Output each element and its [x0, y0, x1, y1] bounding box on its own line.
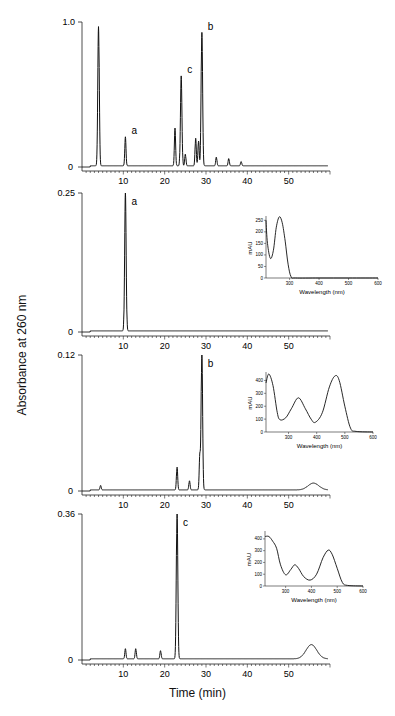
x-tick-label: 30 — [201, 669, 211, 679]
panel-4: 0.3601020304050c010020030040030040050060… — [57, 509, 367, 679]
svg-text:0: 0 — [260, 276, 263, 281]
inset-x-label: Wavelength (nm) — [291, 597, 336, 603]
spectrum-trace — [266, 374, 373, 432]
x-tick-label: 50 — [284, 176, 294, 186]
y-tick-zero: 0 — [68, 327, 73, 337]
y-tick-max: 0.12 — [57, 350, 75, 360]
svg-text:500: 500 — [341, 435, 349, 440]
peak-label-b: b — [208, 21, 214, 32]
y-tick-max: 0.36 — [57, 509, 75, 519]
x-tick-label: 20 — [160, 669, 170, 679]
svg-text:50: 50 — [258, 264, 264, 269]
peak-label-b: b — [208, 358, 214, 369]
svg-text:300: 300 — [286, 281, 294, 286]
svg-text:400: 400 — [313, 435, 321, 440]
svg-text:400: 400 — [315, 281, 323, 286]
svg-text:100: 100 — [255, 252, 263, 257]
panel-2: 0.2501020304050a050100150200250300400500… — [57, 188, 382, 351]
svg-text:0: 0 — [260, 430, 263, 435]
x-tick-label: 40 — [242, 500, 252, 510]
x-axis-label: Time (min) — [0, 686, 395, 700]
svg-text:400: 400 — [308, 589, 316, 594]
svg-text:500: 500 — [345, 281, 353, 286]
svg-text:300: 300 — [282, 589, 290, 594]
x-tick-label: 40 — [242, 669, 252, 679]
inset-x-label: Wavelength (nm) — [297, 443, 342, 449]
x-tick-label: 40 — [242, 341, 252, 351]
spectrum-trace — [266, 217, 378, 279]
svg-text:600: 600 — [359, 589, 367, 594]
peak-label-a: a — [131, 125, 137, 136]
x-tick-label: 10 — [118, 176, 128, 186]
x-tick-label: 50 — [284, 341, 294, 351]
x-tick-label: 30 — [201, 176, 211, 186]
y-axis-label: Absorbance at 260 nm — [15, 275, 29, 435]
svg-text:100: 100 — [255, 417, 263, 422]
y-tick-zero: 0 — [68, 162, 73, 172]
x-tick-label: 50 — [284, 500, 294, 510]
x-tick-label: 10 — [118, 500, 128, 510]
x-tick-label: 20 — [160, 341, 170, 351]
peak-label-c: c — [183, 517, 188, 528]
inset-y-label: mAU — [247, 241, 253, 254]
chromatogram-figure: 1.001020304050acb0.2501020304050a0501001… — [0, 0, 395, 716]
svg-text:400: 400 — [255, 378, 263, 383]
svg-text:500: 500 — [333, 589, 341, 594]
x-tick-label: 30 — [201, 341, 211, 351]
chromatogram-trace — [82, 27, 328, 167]
inset-y-label: mAU — [247, 396, 253, 409]
svg-text:200: 200 — [255, 404, 263, 409]
svg-text:250: 250 — [255, 218, 263, 223]
x-tick-label: 30 — [201, 500, 211, 510]
panel-1: 1.001020304050acb — [62, 17, 330, 186]
x-tick-label: 40 — [242, 176, 252, 186]
svg-text:150: 150 — [255, 241, 263, 246]
y-tick-max: 1.0 — [62, 17, 75, 27]
panel-3: 0.1201020304050b010020030040030040050060… — [57, 350, 377, 510]
svg-text:600: 600 — [374, 281, 382, 286]
peak-label-c: c — [187, 64, 192, 75]
spectrum-trace — [265, 536, 363, 586]
x-tick-label: 10 — [118, 341, 128, 351]
svg-text:400: 400 — [254, 536, 262, 541]
x-tick-label: 20 — [160, 176, 170, 186]
y-tick-zero: 0 — [68, 655, 73, 665]
y-tick-zero: 0 — [68, 486, 73, 496]
svg-text:200: 200 — [255, 229, 263, 234]
inset-y-label: mAU — [246, 553, 252, 566]
x-tick-label: 10 — [118, 669, 128, 679]
svg-text:600: 600 — [369, 435, 377, 440]
svg-text:100: 100 — [254, 572, 262, 577]
inset-spectrum: 0100200300400300400500600Wavelength (nm)… — [246, 531, 367, 603]
svg-text:300: 300 — [285, 435, 293, 440]
svg-text:0: 0 — [259, 584, 262, 589]
y-tick-max: 0.25 — [57, 188, 75, 198]
inset-spectrum: 0100200300400300400500600Wavelength (nm)… — [247, 372, 377, 449]
svg-text:200: 200 — [254, 560, 262, 565]
chromatogram-trace — [82, 355, 328, 491]
inset-spectrum: 050100150200250300400500600Wavelength (n… — [247, 216, 382, 295]
peak-label-a: a — [131, 196, 137, 207]
chromatogram-trace — [82, 514, 328, 660]
inset-x-label: Wavelength (nm) — [299, 289, 344, 295]
x-tick-label: 20 — [160, 500, 170, 510]
chromatogram-trace — [82, 193, 328, 332]
svg-text:300: 300 — [255, 391, 263, 396]
svg-text:300: 300 — [254, 548, 262, 553]
x-tick-label: 50 — [284, 669, 294, 679]
